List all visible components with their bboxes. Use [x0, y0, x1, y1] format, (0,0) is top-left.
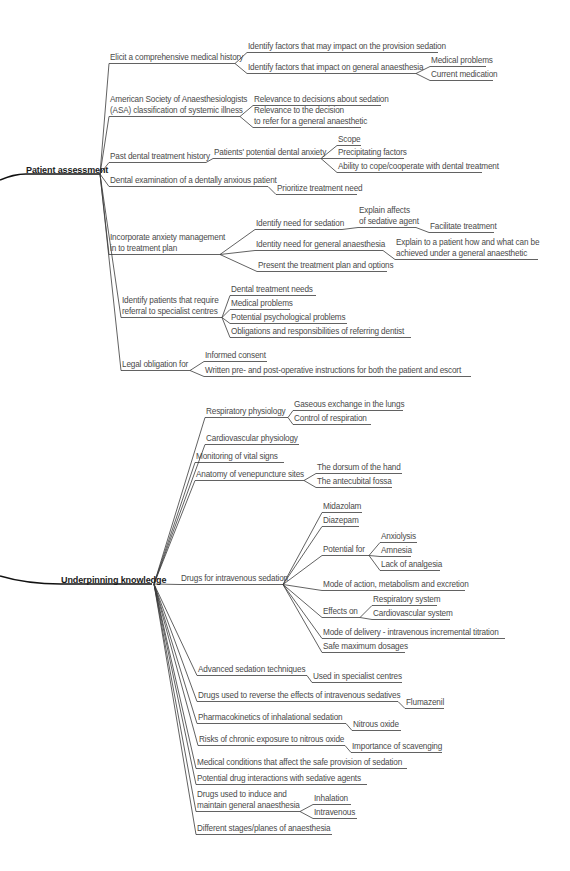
topic-node: Gaseous exchange in the lungs	[294, 400, 404, 410]
topic-node: referral to specialist centres	[122, 307, 218, 317]
topic-node: Elicit a comprehensive medical history	[110, 53, 243, 63]
connector	[416, 228, 429, 233]
topic-node: Intravenous	[314, 808, 355, 818]
topic-node: Present the treatment plan and options	[258, 261, 393, 271]
topic-node: Cardiovascular system	[373, 609, 453, 619]
topic-node: Ability to cope/cooperate with dental tr…	[338, 162, 499, 172]
topic-node: Explain to a patient how and what can be	[396, 238, 539, 248]
topic-node: Current medication	[431, 70, 497, 80]
topic-node: Obligations and responsibilities of refe…	[231, 327, 404, 337]
connector	[154, 418, 205, 585]
topic-node: Facilitate treatment	[430, 222, 497, 232]
topic-node: Informed consent	[205, 351, 266, 361]
topic-node: Mode of delivery - intravenous increment…	[323, 628, 499, 638]
connector	[360, 618, 372, 620]
connector	[283, 513, 322, 585]
root-topic: Patient assessment	[26, 165, 108, 175]
topic-node: Potential for	[323, 545, 365, 555]
topic-node: Inhalation	[314, 794, 348, 804]
topic-node: Risks of chronic exposure to nitrous oxi…	[199, 735, 344, 745]
connector	[360, 606, 372, 618]
topic-node: The dorsum of the hand	[317, 463, 401, 473]
connector	[100, 64, 109, 175]
topic-node: Anxiolysis	[381, 532, 416, 542]
connector	[154, 584, 196, 835]
topic-node: Identity need for general anaesthesia	[256, 240, 385, 250]
topic-node: Cardiovascular physiology	[206, 434, 298, 444]
connector	[190, 371, 204, 377]
connector	[283, 556, 322, 585]
topic-node: Scope	[338, 135, 360, 145]
topic-node: Mode of action, metabolism and excretion	[323, 580, 469, 590]
topic-node: Explain affects	[359, 206, 410, 216]
connector	[416, 74, 430, 81]
topic-node: Medical conditions that affect the safe …	[197, 758, 402, 768]
connector	[154, 445, 205, 585]
topic-node: Nitrous oxide	[353, 720, 399, 730]
topic-node: Dental examination of a dentally anxious…	[110, 176, 277, 186]
topic-node: achieved under a general anaesthetic	[396, 249, 527, 259]
topic-node: Relevance to the decision	[254, 106, 344, 116]
connector	[283, 585, 322, 653]
connector	[154, 584, 198, 746]
topic-node: Advanced sedation techniques	[198, 665, 305, 675]
connector	[235, 64, 247, 74]
connector	[342, 228, 358, 230]
topic-node: to refer for a general anaesthetic	[254, 117, 367, 127]
connector	[268, 187, 276, 195]
topic-node: Incorporate anxiety management	[110, 233, 225, 243]
root-topic: Underpinning knowledge	[61, 575, 166, 585]
connector	[288, 411, 293, 418]
connector	[154, 584, 196, 785]
connector	[283, 527, 322, 585]
topic-node: Patients' potential dental anxiety	[214, 148, 326, 158]
topic-node: Effects on	[323, 607, 358, 617]
connector	[240, 117, 253, 128]
topic-node: Control of respiration	[294, 414, 367, 424]
connector	[300, 812, 313, 819]
topic-node: Identify factors that impact on general …	[248, 63, 423, 73]
topic-node: Prioritize treatment need	[277, 184, 362, 194]
connector	[345, 746, 351, 753]
topic-node: Monitoring of vital signs	[196, 452, 278, 462]
connector	[190, 362, 204, 371]
connector	[288, 418, 293, 425]
connector	[321, 159, 337, 173]
connector	[154, 481, 195, 585]
connector	[154, 584, 196, 769]
topic-node: Drugs used to reverse the effects of int…	[198, 691, 400, 701]
topic-node: Legal obligation for	[122, 360, 188, 370]
topic-node: Medical problems	[231, 299, 293, 309]
topic-node: Written pre- and post-operative instruct…	[205, 366, 461, 376]
topic-node: The antecubital fossa	[317, 477, 392, 487]
topic-node: Identify need for sedation	[256, 219, 344, 229]
topic-node: Respiratory physiology	[206, 407, 286, 417]
connector	[154, 584, 196, 812]
topic-node: (ASA) classification of systemic illness	[110, 106, 243, 116]
connector	[369, 543, 380, 556]
topic-node: Respiratory system	[373, 595, 440, 605]
connector	[100, 174, 121, 371]
topic-node: Diazepam	[323, 516, 359, 526]
connector	[369, 556, 380, 571]
connector	[222, 296, 230, 318]
topic-node: Lack of analgesia	[381, 560, 442, 570]
topic-node: maintain general anaesthesia	[197, 801, 300, 811]
topic-node: Amnesia	[381, 546, 412, 556]
topic-node: Importance of scavenging	[352, 742, 442, 752]
topic-node: Safe maximum dosages	[323, 642, 408, 652]
connector	[398, 702, 405, 709]
topic-node: in to treatment plan	[110, 244, 177, 254]
topic-node: of sedative agent	[359, 217, 419, 227]
topic-node: Relevance to decisions about sedation	[254, 95, 389, 105]
topic-node: Used in specialist centres	[313, 672, 402, 682]
connector	[383, 251, 395, 260]
topic-node: Past dental treatment history	[110, 152, 210, 162]
connector	[283, 585, 322, 639]
connector	[154, 463, 195, 585]
topic-node: American Society of Anaesthesiologists	[110, 95, 247, 105]
topic-node: Potential psychological problems	[231, 313, 345, 323]
topic-node: Different stages/planes of anaesthesia	[197, 824, 330, 834]
connector	[346, 724, 352, 731]
connector	[154, 584, 197, 702]
